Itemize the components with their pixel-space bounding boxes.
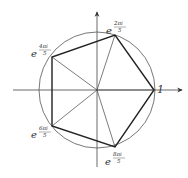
label-8pi-5: e 8πi 5	[105, 151, 125, 167]
svg-text:5: 5	[118, 27, 122, 33]
svg-text:5: 5	[43, 50, 47, 56]
roots-of-unity-diagram: 1 e 2πi 5 e 4πi 5 e 6πi 5 e 8πi 5	[0, 0, 188, 178]
label-2pi-5: e 2πi 5	[106, 20, 126, 36]
svg-text:8πi: 8πi	[113, 151, 122, 157]
svg-text:5: 5	[117, 158, 121, 164]
label-one: 1	[157, 83, 164, 96]
svg-text:e: e	[106, 25, 112, 36]
svg-text:e: e	[105, 156, 111, 167]
svg-text:e: e	[31, 48, 37, 59]
svg-text:4πi: 4πi	[38, 43, 48, 49]
svg-text:e: e	[31, 129, 37, 140]
svg-text:2πi: 2πi	[113, 20, 123, 26]
svg-text:6πi: 6πi	[39, 125, 48, 131]
svg-text:5: 5	[43, 132, 47, 138]
label-4pi-5: e 4πi 5	[31, 43, 51, 59]
label-6pi-5: e 6πi 5	[31, 125, 51, 140]
